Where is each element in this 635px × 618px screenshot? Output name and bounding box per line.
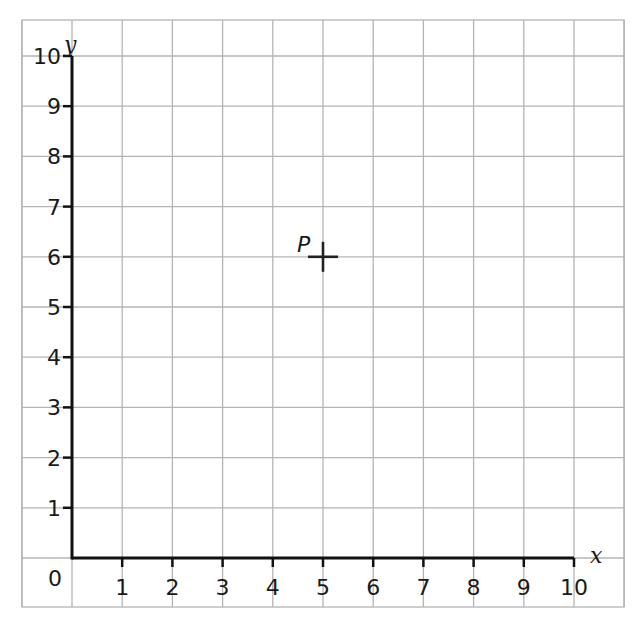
x-tick-label: 5 — [316, 575, 330, 600]
x-tick-label: 9 — [517, 575, 531, 600]
grid-lines — [22, 20, 624, 607]
y-tick-label: 2 — [47, 446, 61, 471]
x-tick-label: 10 — [560, 575, 588, 600]
x-tick-label: 8 — [467, 575, 481, 600]
point-label: P — [297, 232, 311, 257]
tick-labels: 1234567891012345678910 — [33, 44, 588, 600]
point-p-marker: P — [297, 232, 338, 272]
y-tick-label: 6 — [47, 245, 61, 270]
y-tick-label: 3 — [47, 395, 61, 420]
y-tick-label: 5 — [47, 295, 61, 320]
plotted-points: P — [297, 232, 338, 272]
y-tick-label: 1 — [47, 496, 61, 521]
coordinate-grid-chart: 1234567891012345678910 x y 0 P — [0, 0, 635, 618]
x-axis-label: x — [590, 543, 603, 568]
y-tick-label: 9 — [47, 94, 61, 119]
x-tick-label: 1 — [115, 575, 129, 600]
y-tick-label: 7 — [47, 195, 61, 220]
y-tick-label: 10 — [33, 44, 61, 69]
y-tick-label: 4 — [47, 345, 61, 370]
x-tick-label: 3 — [216, 575, 230, 600]
y-axis-label: y — [63, 32, 77, 57]
x-tick-label: 7 — [416, 575, 430, 600]
x-tick-label: 2 — [165, 575, 179, 600]
tick-marks — [63, 56, 574, 567]
x-tick-label: 4 — [266, 575, 280, 600]
x-tick-label: 6 — [366, 575, 380, 600]
y-tick-label: 8 — [47, 144, 61, 169]
origin-label: 0 — [48, 566, 62, 591]
